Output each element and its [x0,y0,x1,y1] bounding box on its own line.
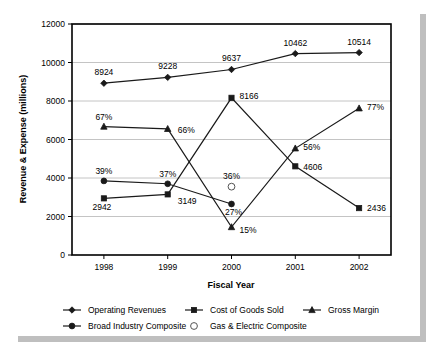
legend-label: Gross Margin [328,305,379,315]
data-point-label: 8166 [240,91,259,101]
data-point-marker [165,181,171,187]
data-point-marker [356,49,362,55]
data-point-marker [228,183,235,190]
x-tick-label: 2000 [222,262,241,272]
legend-item: Broad Industry Composite [63,321,187,331]
y-tick-label: 10000 [41,58,65,68]
data-point-marker [293,164,298,169]
y-tick-label: 2000 [46,212,65,222]
legend-item: Cost of Goods Sold [185,305,284,315]
chart-legend: Operating RevenuesCost of Goods SoldGros… [63,305,379,331]
y-tick-label: 12000 [41,19,65,29]
data-point-label: 10514 [347,37,371,47]
legend-item: Gas & Electric Composite [191,321,308,331]
data-point-label: 36% [223,171,240,181]
legend-marker [69,307,75,313]
data-point-marker [229,95,234,100]
data-point-label: 2436 [367,203,386,213]
x-tick-label: 1999 [158,262,177,272]
data-point-marker [165,74,171,80]
data-point-marker [165,192,170,197]
data-point-marker [228,66,234,72]
data-point-label: 15% [240,225,257,235]
x-tick-label: 1998 [94,262,113,272]
y-tick-label: 6000 [46,135,65,145]
data-point-label: 3149 [178,196,197,206]
data-point-label: 66% [178,125,195,135]
data-point-label: 27% [225,207,242,217]
legend-marker [191,307,196,312]
legend-item: Gross Margin [303,305,379,315]
data-point-label: 77% [367,102,384,112]
legend-label: Operating Revenues [88,305,166,315]
legend-label: Broad Industry Composite [88,321,187,331]
data-point-label: 4606 [303,162,322,172]
data-point-label: 39% [95,166,112,176]
data-point-marker [357,206,362,211]
legend-label: Gas & Electric Composite [210,321,307,331]
legend-label: Cost of Goods Sold [210,305,284,315]
data-point-marker [356,105,362,111]
x-tick-label: 2001 [286,262,305,272]
data-point-label: 2942 [92,202,111,212]
data-point-label: 9228 [158,61,177,71]
x-axis-title: Fiscal Year [208,280,255,290]
data-point-label: 10462 [283,38,307,48]
data-point-marker [101,80,107,86]
data-point-marker [101,178,107,184]
line-chart: 020004000600080001000012000 199819992000… [0,0,432,352]
data-point-marker [292,50,298,56]
data-point-marker [101,196,106,201]
x-axis-ticks: 19981999200020012002 [94,255,368,272]
legend-item: Operating Revenues [63,305,166,315]
legend-marker [69,323,75,329]
x-tick-label: 2002 [350,262,369,272]
series-line [104,98,359,208]
y-axis-title: Revenue & Expense (millions) [18,75,28,204]
data-point-label: 8924 [94,67,113,77]
data-point-marker [292,145,298,151]
y-tick-label: 0 [60,250,65,260]
y-tick-label: 8000 [46,96,65,106]
legend-marker [191,323,198,330]
data-point-label: 9637 [222,53,241,63]
point-labels-layer: 8924922896371046210514294231498166460624… [92,37,386,235]
data-point-label: 56% [303,142,320,152]
data-point-label: 67% [95,112,112,122]
y-tick-label: 4000 [46,173,65,183]
y-axis-ticks: 020004000600080001000012000 [41,19,72,260]
data-point-label: 37% [159,169,176,179]
chart-figure: 020004000600080001000012000 199819992000… [0,0,432,352]
